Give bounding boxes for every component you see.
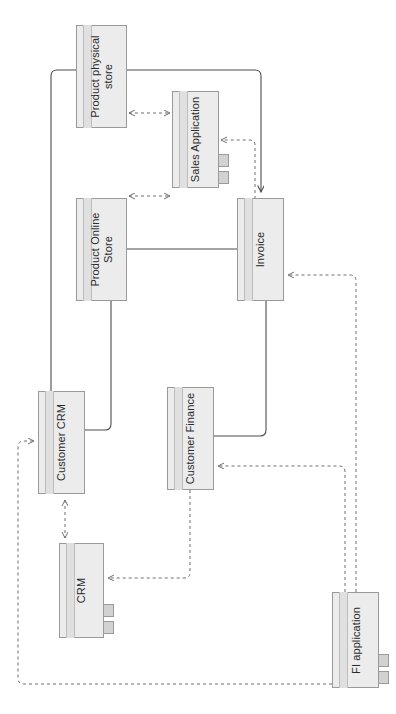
edge-invoice-to-sales-application [221,140,255,199]
node-leg-icon [218,171,229,184]
node-product-physical-store[interactable]: Product physical store [76,25,127,128]
node-fi-application[interactable]: FI application [332,592,379,688]
node-label: Customer Finance [167,387,214,490]
node-crm[interactable]: CRM [59,543,104,638]
node-leg-icon [103,621,114,634]
edge-online-store-to-customer-crm [85,301,111,430]
edge-physical-store-to-customer-crm [51,70,76,391]
node-label: Sales Application [172,91,219,188]
node-product-online-store[interactable]: Product Online Store [76,198,127,301]
node-label: FI application [332,592,379,688]
node-label: Invoice [237,198,284,301]
node-label: Product physical store [76,25,127,128]
edge-customer-finance-to-crm [108,490,190,578]
node-leg-icon [103,604,114,617]
node-label: Customer CRM [38,391,85,494]
diagram-canvas: Product physical storeSales ApplicationP… [0,0,396,714]
node-leg-icon [218,154,229,167]
node-customer-finance[interactable]: Customer Finance [167,387,214,490]
node-leg-icon [378,654,389,667]
node-leg-icon [378,671,389,684]
edge-fi-application-to-invoice [288,275,356,592]
node-invoice[interactable]: Invoice [237,198,284,301]
node-label: CRM [59,543,104,638]
node-customer-crm[interactable]: Customer CRM [38,391,85,494]
edge-fi-application-to-customer-finance [218,466,345,592]
node-label: Product Online Store [76,198,127,301]
edge-invoice-to-customer-finance [214,301,266,436]
node-sales-application[interactable]: Sales Application [172,91,219,188]
